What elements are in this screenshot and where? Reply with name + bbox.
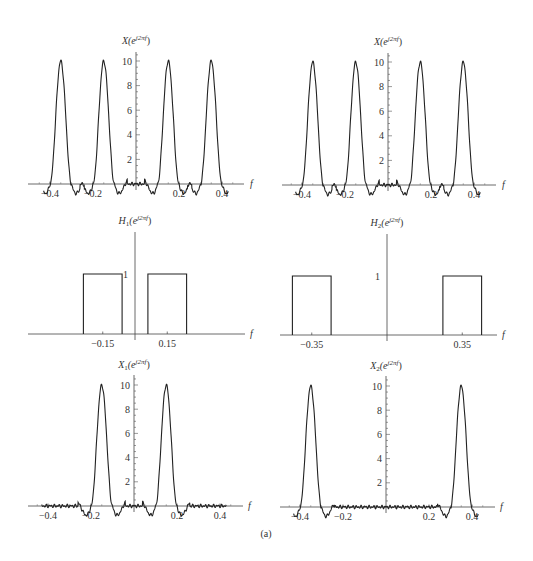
y-tick-label: 2 xyxy=(377,477,382,488)
y-tick-label: 8 xyxy=(125,404,130,415)
x-tick-label: −0.15 xyxy=(91,338,114,349)
y-axis-title: X1(ej2πf) xyxy=(117,358,150,372)
chart-panel-X2-bottom-right: X2(ej2πf)f−0.4−0.20.20.4246810 xyxy=(280,359,504,522)
filter-passband xyxy=(292,276,331,335)
x-tick-label: −0.2 xyxy=(84,188,102,199)
x-tick-label: −0.2 xyxy=(336,189,354,200)
y-tick-label: 4 xyxy=(127,129,132,140)
y-axis-title: H1(ej2πf) xyxy=(118,214,152,228)
chart-panel-H1-middle-left: H1(ej2πf)f−0.150.151 xyxy=(28,214,254,349)
chart-panel-X1-bottom-left: X1(ej2πf)f−0.4−0.20.20.4246810 xyxy=(28,358,252,521)
chart-panel-X-top-right: X(ej2πf)f−0.4−0.20.20.4246810 xyxy=(282,35,506,200)
y-tick-label: 8 xyxy=(377,405,382,416)
y-tick-label: 10 xyxy=(374,57,384,68)
filter-passband xyxy=(148,274,187,334)
x-tick-label: −0.4 xyxy=(291,511,309,522)
y-tick-label: 10 xyxy=(122,56,132,67)
y-tick-label: 6 xyxy=(127,105,132,116)
figure-canvas: X(ej2πf)f−0.4−0.20.20.4246810X(ej2πf)f−0… xyxy=(0,0,533,561)
chart-panel-X-top-left: X(ej2πf)f−0.4−0.20.20.4246810 xyxy=(28,34,254,199)
figure-panels: X(ej2πf)f−0.4−0.20.20.4246810X(ej2πf)f−0… xyxy=(28,34,506,522)
x-tick-label: −0.2 xyxy=(334,511,352,522)
y-tick-label: 4 xyxy=(377,453,382,464)
x-tick-label: 0.35 xyxy=(454,339,472,350)
y-tick-label: 8 xyxy=(127,80,132,91)
y-tick-label: 4 xyxy=(379,130,384,141)
x-tick-label: −0.2 xyxy=(82,510,100,521)
y-axis-title: X(ej2πf) xyxy=(373,35,402,48)
y-tick-label: 1 xyxy=(375,271,380,282)
y-tick-label: 2 xyxy=(379,155,384,166)
y-axis-title: X2(ej2πf) xyxy=(369,359,402,373)
x-tick-label: 0.4 xyxy=(214,510,227,521)
y-tick-label: 2 xyxy=(127,154,132,165)
x-axis-label: f xyxy=(250,328,254,339)
filter-passband xyxy=(83,274,122,334)
x-axis-label: f xyxy=(248,500,252,511)
x-axis-label: f xyxy=(250,178,254,189)
x-tick-label: 0.15 xyxy=(159,338,177,349)
y-tick-label: 2 xyxy=(125,476,130,487)
y-tick-label: 4 xyxy=(125,452,130,463)
filter-passband xyxy=(443,276,482,335)
x-tick-label: 0.2 xyxy=(423,511,436,522)
x-tick-label: −0.4 xyxy=(39,510,57,521)
x-axis-label: f xyxy=(500,501,504,512)
x-tick-label: −0.4 xyxy=(293,189,311,200)
x-tick-label: −0.35 xyxy=(300,339,323,350)
y-axis-title: H2(ej2πf) xyxy=(370,216,404,230)
x-tick-label: −0.4 xyxy=(41,188,59,199)
x-axis-label: f xyxy=(502,329,506,340)
chart-panel-H2-middle-right: H2(ej2πf)f−0.350.351 xyxy=(280,216,506,350)
x-axis-label: f xyxy=(502,179,506,190)
y-tick-label: 6 xyxy=(379,106,384,117)
figure-caption: (a) xyxy=(260,528,271,540)
y-tick-label: 8 xyxy=(379,81,384,92)
y-tick-label: 10 xyxy=(120,380,130,391)
y-tick-label: 1 xyxy=(123,269,128,280)
y-tick-label: 6 xyxy=(377,429,382,440)
y-tick-label: 6 xyxy=(125,428,130,439)
y-tick-label: 10 xyxy=(372,381,382,392)
y-axis-title: X(ej2πf) xyxy=(121,34,150,47)
